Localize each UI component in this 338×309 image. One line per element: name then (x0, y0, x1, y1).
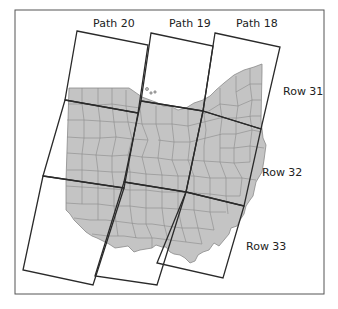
path-row-map: Path 20 Path 19 Path 18 Row 31 Row 32 Ro… (0, 0, 338, 309)
path-18-label: Path 18 (236, 17, 278, 30)
path-20-label: Path 20 (93, 17, 135, 30)
path-19-label: Path 19 (169, 17, 211, 30)
row-33-label: Row 33 (246, 240, 286, 253)
map-canvas: Path 20 Path 19 Path 18 Row 31 Row 32 Ro… (0, 0, 338, 309)
row-32-label: Row 32 (262, 166, 302, 179)
row-31-label: Row 31 (283, 85, 323, 98)
